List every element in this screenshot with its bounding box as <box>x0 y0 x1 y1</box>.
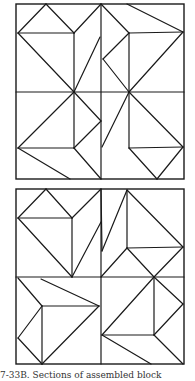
seam-line <box>18 4 46 33</box>
seam-line <box>129 32 183 33</box>
seam-line <box>46 4 74 33</box>
seam-line <box>102 277 154 335</box>
seam-line <box>102 190 127 251</box>
seam-line <box>127 247 183 248</box>
seam-line <box>103 33 129 59</box>
seam-line <box>154 277 183 304</box>
seam-line <box>102 92 129 147</box>
seam-line <box>74 4 101 33</box>
seam-line <box>72 189 101 218</box>
seam-line <box>154 304 183 335</box>
seam-line <box>129 148 157 179</box>
quilt-block-diagram <box>0 0 195 370</box>
seam-line <box>46 189 72 218</box>
seam-line <box>101 4 129 33</box>
seam-line <box>129 92 183 147</box>
seam-line <box>18 92 74 148</box>
seam-line <box>101 248 127 277</box>
seam-line <box>18 189 46 218</box>
seam-line <box>74 148 101 179</box>
seam-line <box>102 335 151 364</box>
seam-line <box>72 222 101 277</box>
seam-line <box>41 279 99 306</box>
figure-caption: 7-33B. Sections of assembled block <box>0 370 195 381</box>
seam-line <box>18 278 42 306</box>
seam-line <box>127 4 183 32</box>
seam-line <box>127 248 154 277</box>
seam-line <box>129 32 183 92</box>
seam-line <box>154 247 183 277</box>
seam-line <box>129 147 183 148</box>
seam-line <box>42 306 99 364</box>
seam-line <box>18 218 72 277</box>
seam-line <box>18 148 70 179</box>
seam-line <box>74 37 100 92</box>
seam-line <box>18 33 74 92</box>
seam-line <box>157 147 183 179</box>
seam-line <box>103 59 129 92</box>
seam-line <box>18 338 42 364</box>
bottom-block <box>16 189 184 364</box>
top-block <box>16 4 184 179</box>
seam-line <box>18 306 42 338</box>
seam-line <box>154 335 183 364</box>
seam-line <box>74 121 101 148</box>
seam-line <box>74 92 101 121</box>
seam-line <box>127 190 183 247</box>
